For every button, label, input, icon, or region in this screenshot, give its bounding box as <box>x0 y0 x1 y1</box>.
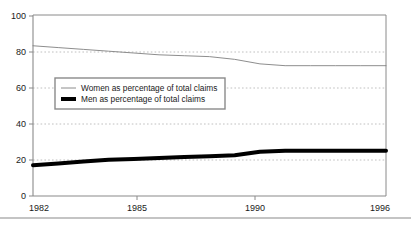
x-axis-label-1996: 1996 <box>370 203 390 213</box>
y-axis-label-100: 100 <box>11 11 26 21</box>
chart-legend: Women as percentage of total claims Men … <box>55 78 225 109</box>
x-tick-marks <box>137 196 255 200</box>
x-axis-label-1985: 1985 <box>127 203 147 213</box>
legend-label-men: Men as percentage of total claims <box>81 94 205 104</box>
legend-label-women: Women as percentage of total claims <box>81 83 217 93</box>
x-axis-label-1990: 1990 <box>245 203 265 213</box>
y-tick-marks <box>29 16 33 196</box>
chart-canvas: 100 80 60 40 20 0 1982 1985 1990 1996 Wo… <box>0 0 411 228</box>
line-chart: 100 80 60 40 20 0 1982 1985 1990 1996 Wo… <box>0 0 411 228</box>
y-axis-label-20: 20 <box>16 155 26 165</box>
y-axis-label-40: 40 <box>16 119 26 129</box>
y-axis-label-60: 60 <box>16 83 26 93</box>
x-axis-label-1982: 1982 <box>29 203 49 213</box>
y-axis-label-0: 0 <box>21 191 26 201</box>
y-axis-label-80: 80 <box>16 47 26 57</box>
